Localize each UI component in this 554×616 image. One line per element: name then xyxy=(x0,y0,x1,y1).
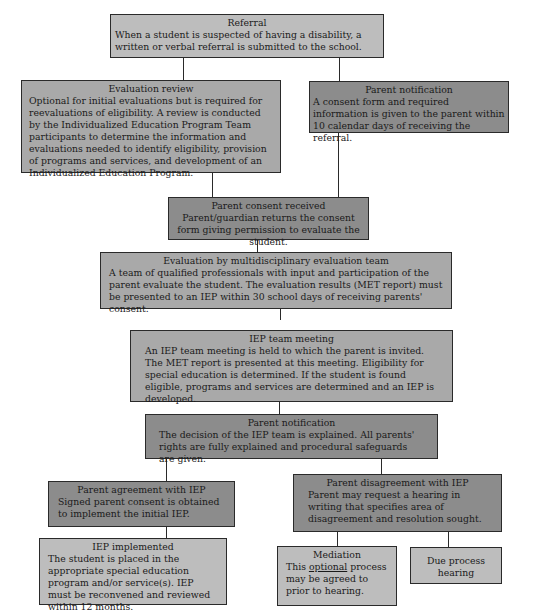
node-title: Referral xyxy=(115,17,379,29)
node-title: Mediation xyxy=(286,549,388,561)
node-title: Evaluation by multidisciplinary evaluati… xyxy=(109,255,443,267)
node-evaluation-review: Evaluation review Optional for initial e… xyxy=(21,80,281,173)
node-title: Evaluation review xyxy=(29,83,273,95)
node-due-process: Due process hearing xyxy=(410,547,502,584)
node-met-evaluation: Evaluation by multidisciplinary evaluati… xyxy=(100,252,452,309)
node-title: Parent consent received xyxy=(173,200,364,212)
node-iep-meeting: IEP team meeting An IEP team meeting is … xyxy=(130,330,453,402)
node-body: A consent form and required information … xyxy=(313,96,505,144)
node-title: Parent disagreement with IEP xyxy=(308,477,487,489)
connector xyxy=(448,531,449,548)
node-parent-notification-2: Parent notification The decision of the … xyxy=(145,414,438,459)
node-body: Signed parent consent is obtained to imp… xyxy=(58,496,225,520)
node-mediation: Mediation This optional process may be a… xyxy=(277,546,397,606)
node-body: This optional process may be agreed to p… xyxy=(286,561,388,597)
node-body-text: This xyxy=(286,561,309,572)
connector xyxy=(183,57,184,81)
node-title: IEP implemented xyxy=(48,541,218,553)
node-body: Optional for initial evaluations but is … xyxy=(29,95,273,179)
node-title: Parent notification xyxy=(313,84,505,96)
node-parent-disagreement: Parent disagreement with IEP Parent may … xyxy=(293,474,502,532)
node-title: Parent notification xyxy=(159,417,424,429)
node-title: Parent agreement with IEP xyxy=(58,484,225,496)
node-body: The student is placed in the appropriate… xyxy=(48,553,218,613)
node-body: Parent/guardian returns the consent form… xyxy=(173,212,364,248)
node-parent-consent: Parent consent received Parent/guardian … xyxy=(168,197,369,240)
node-title: Due process hearing xyxy=(421,555,491,579)
node-body: When a student is suspected of having a … xyxy=(115,29,379,53)
node-title: IEP team meeting xyxy=(145,333,438,345)
node-body: An IEP team meeting is held to which the… xyxy=(145,345,438,405)
node-body: A team of qualified professionals with i… xyxy=(109,267,443,315)
node-body: The decision of the IEP team is explaine… xyxy=(159,429,424,465)
node-iep-implemented: IEP implemented The student is placed in… xyxy=(39,538,227,605)
node-body: Parent may request a hearing in writing … xyxy=(308,489,487,525)
connector xyxy=(339,57,340,81)
node-parent-notification-1: Parent notification A consent form and r… xyxy=(309,81,509,133)
node-parent-agreement: Parent agreement with IEP Signed parent … xyxy=(48,481,235,527)
node-referral: Referral When a student is suspected of … xyxy=(110,14,384,58)
optional-emphasis: optional xyxy=(309,561,347,572)
